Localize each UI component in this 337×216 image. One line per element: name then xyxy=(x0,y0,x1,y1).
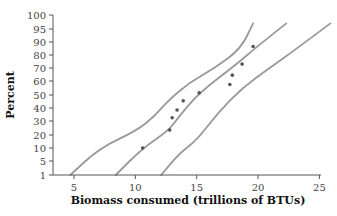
data-point xyxy=(230,73,234,77)
lower-confidence-band-curve xyxy=(70,23,253,175)
y-tick-label: 50 xyxy=(33,90,46,101)
y-tick-label: 20 xyxy=(33,130,46,141)
x-axis-ticks: 510152025 xyxy=(71,175,326,193)
data-point xyxy=(181,99,185,103)
data-point xyxy=(170,116,174,120)
y-tick-label: 5 xyxy=(40,156,46,167)
data-points xyxy=(141,45,255,150)
y-axis-title: Percent xyxy=(4,70,17,118)
x-tick-label: 25 xyxy=(313,182,326,193)
x-tick-label: 15 xyxy=(190,182,203,193)
fit-and-confidence-curves xyxy=(70,23,330,175)
y-tick-label: 10 xyxy=(33,143,46,154)
x-tick-label: 20 xyxy=(252,182,265,193)
probability-plot: 1510203040506070809095100 510152025 Perc… xyxy=(0,0,337,216)
y-axis-ticks: 1510203040506070809095100 xyxy=(27,10,53,181)
data-point xyxy=(197,91,201,95)
data-point xyxy=(251,45,255,49)
y-tick-label: 70 xyxy=(33,63,46,74)
y-tick-label: 100 xyxy=(27,10,46,21)
data-point xyxy=(168,128,172,132)
data-point xyxy=(175,108,179,112)
y-tick-label: 95 xyxy=(33,24,46,35)
y-tick-label: 80 xyxy=(33,50,46,61)
y-tick-label: 60 xyxy=(33,76,46,87)
data-point xyxy=(141,146,145,150)
x-tick-label: 10 xyxy=(129,182,142,193)
data-point xyxy=(240,62,244,66)
upper-confidence-band-curve xyxy=(161,23,330,175)
axes: 1510203040506070809095100 510152025 xyxy=(27,10,326,194)
y-tick-label: 30 xyxy=(33,116,46,127)
y-tick-label: 40 xyxy=(33,103,46,114)
data-point xyxy=(228,83,232,87)
fitted-line-curve xyxy=(116,23,287,175)
y-tick-label: 1 xyxy=(40,170,46,181)
x-tick-label: 5 xyxy=(71,182,77,193)
y-tick-label: 90 xyxy=(33,37,46,48)
x-axis-title: Biomass consumed (trillions of BTUs) xyxy=(71,194,306,207)
